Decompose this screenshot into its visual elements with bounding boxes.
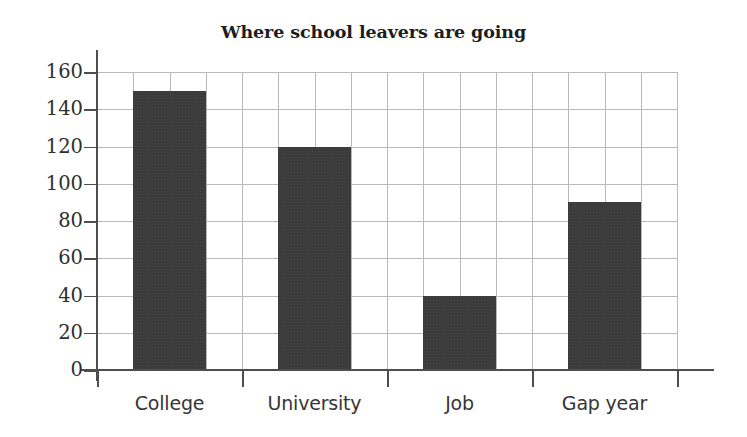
y-axis-tick	[84, 221, 97, 223]
x-axis-label-job: Job	[445, 392, 474, 414]
y-axis-tick	[84, 147, 97, 149]
y-axis-line	[96, 50, 98, 381]
y-axis-label: 60	[13, 249, 83, 269]
x-axis-tick	[532, 370, 534, 387]
x-axis-label-gap-year: Gap year	[562, 392, 647, 414]
x-axis-tick	[242, 370, 244, 387]
x-axis-tick	[387, 370, 389, 387]
y-axis-label: 160	[13, 62, 83, 82]
y-axis-tick	[84, 109, 97, 111]
y-axis-tick	[84, 72, 97, 74]
gridline-vertical	[242, 72, 243, 370]
x-axis-label-college: College	[135, 392, 205, 414]
gridline-vertical	[532, 72, 533, 370]
y-axis-label: 20	[13, 323, 83, 343]
y-axis-labels: 020406080100120140160	[0, 0, 83, 437]
y-axis-tick	[84, 296, 97, 298]
bar-university	[278, 147, 352, 371]
bar-gap-year	[568, 202, 642, 370]
chart-title: Where school leavers are going	[0, 22, 747, 42]
y-axis-label: 40	[13, 286, 83, 306]
gridline-vertical	[677, 72, 678, 370]
bar-college	[133, 91, 207, 370]
x-axis-tick	[677, 370, 679, 387]
y-axis-label: 100	[13, 174, 83, 194]
bar-chart: Where school leavers are going 020406080…	[0, 0, 747, 437]
y-axis-label: 80	[13, 211, 83, 231]
x-axis-tick	[97, 370, 99, 387]
y-axis-tick	[84, 333, 97, 335]
y-axis-tick	[84, 370, 97, 372]
y-axis-tick	[84, 258, 97, 260]
gridline-vertical	[387, 72, 388, 370]
y-axis-label: 120	[13, 137, 83, 157]
x-axis-line	[80, 369, 714, 371]
plot-area	[97, 72, 677, 370]
x-axis-label-university: University	[268, 392, 362, 414]
y-axis-label: 140	[13, 100, 83, 120]
y-axis-tick	[84, 184, 97, 186]
y-axis-label: 0	[13, 360, 83, 380]
bar-job	[423, 296, 497, 371]
